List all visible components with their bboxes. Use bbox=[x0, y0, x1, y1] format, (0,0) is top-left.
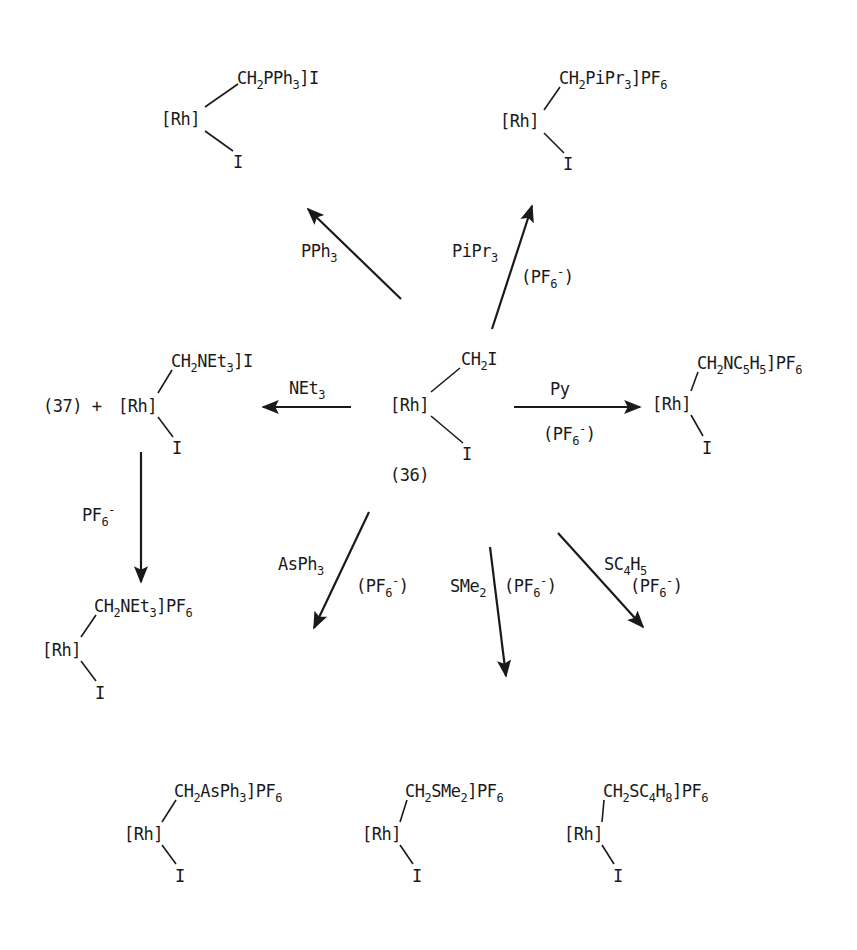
bond-asph3-top bbox=[162, 800, 176, 822]
asph3-product-bottom: I bbox=[175, 868, 185, 885]
sme2-product-top: CH2SMe2]PF6 bbox=[405, 783, 503, 800]
bond-pph3-bottom bbox=[205, 131, 233, 151]
center-rh: [Rh] bbox=[390, 397, 429, 414]
pipr3-counterion: (PF6-) bbox=[521, 269, 573, 286]
net3-product-bottom: I bbox=[172, 440, 182, 457]
sme2-product-bottom: I bbox=[412, 868, 422, 885]
bond-center-bottom bbox=[431, 416, 463, 443]
bond-py-top bbox=[691, 372, 698, 391]
net3pf6-product-bottom: I bbox=[95, 685, 105, 702]
asph3-product-top: CH2AsPh3]PF6 bbox=[174, 783, 282, 800]
sc4h5-counterion: (PF6-) bbox=[630, 578, 682, 595]
net3-product-prefix: (37) + bbox=[43, 398, 102, 415]
bond-net3pf6-bottom bbox=[81, 661, 96, 681]
sme2-product-rh: [Rh] bbox=[362, 826, 401, 843]
pf6-reagent: PF6- bbox=[82, 507, 115, 524]
py-product-top: CH2NC5H5]PF6 bbox=[697, 355, 802, 372]
pph3-product-rh: [Rh] bbox=[161, 111, 200, 128]
sme2-reagent: SMe2 bbox=[450, 578, 486, 595]
pipr3-reagent: PiPr3 bbox=[452, 243, 498, 260]
bond-pipr3-bottom bbox=[544, 133, 564, 153]
net3pf6-product-top: CH2NEt3]PF6 bbox=[94, 598, 192, 615]
sc4h8-product-bottom: I bbox=[613, 868, 623, 885]
sme2-counterion: (PF6-) bbox=[504, 578, 556, 595]
bond-sme2-bottom bbox=[400, 845, 413, 864]
pph3-product-top: CH2PPh3]I bbox=[237, 70, 319, 87]
py-reagent: Py bbox=[550, 381, 570, 398]
bond-asph3-bottom bbox=[162, 845, 176, 864]
net3-reagent: NEt3 bbox=[289, 380, 325, 397]
net3-product-rh: [Rh] bbox=[118, 398, 157, 415]
reaction-scheme: CH2I [Rh] I (36) CH2PPh3]I [Rh] I CH2PiP… bbox=[0, 0, 857, 950]
pph3-reagent: PPh3 bbox=[301, 243, 337, 260]
bond-sc4h8-top bbox=[602, 800, 604, 822]
bond-center-top bbox=[431, 368, 460, 392]
py-counterion: (PF6-) bbox=[543, 426, 595, 443]
net3pf6-product-rh: [Rh] bbox=[42, 642, 81, 659]
bond-pph3-top bbox=[205, 84, 238, 107]
py-product-bottom: I bbox=[702, 440, 712, 457]
pph3-product-bottom: I bbox=[233, 154, 243, 171]
pipr3-product-rh: [Rh] bbox=[500, 113, 539, 130]
sc4h5-reagent: SC4H5 bbox=[604, 556, 647, 573]
center-top-group: CH2I bbox=[461, 351, 497, 368]
asph3-reagent: AsPh3 bbox=[278, 556, 324, 573]
asph3-counterion: (PF6-) bbox=[356, 578, 408, 595]
bond-net3-bottom bbox=[158, 417, 173, 437]
bond-pipr3-top bbox=[544, 87, 560, 110]
center-bottom-iodide: I bbox=[462, 446, 472, 463]
pipr3-product-bottom: I bbox=[563, 156, 573, 173]
sc4h8-product-rh: [Rh] bbox=[564, 826, 603, 843]
bond-sme2-top bbox=[400, 800, 407, 822]
compound-id-36: (36) bbox=[390, 467, 429, 484]
sc4h8-product-top: CH2SC4H8]PF6 bbox=[603, 783, 708, 800]
bond-sc4h8-bottom bbox=[602, 845, 614, 864]
net3-product-top: CH2NEt3]I bbox=[171, 353, 253, 370]
arrow-sme2 bbox=[490, 547, 506, 676]
py-product-rh: [Rh] bbox=[652, 396, 691, 413]
bond-py-bottom bbox=[691, 415, 703, 436]
pipr3-product-top: CH2PiPr3]PF6 bbox=[559, 70, 667, 87]
bond-net3-top bbox=[158, 370, 172, 393]
bond-net3pf6-top bbox=[81, 615, 96, 637]
asph3-product-rh: [Rh] bbox=[124, 826, 163, 843]
